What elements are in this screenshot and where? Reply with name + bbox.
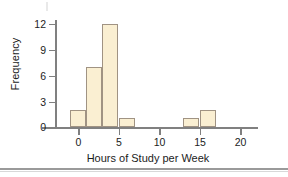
x-axis-title: Hours of Study per Week	[48, 152, 248, 164]
scan-artifact	[46, 2, 48, 11]
y-tick-label-6: 6	[24, 70, 46, 82]
x-tick-mark-15	[200, 129, 202, 135]
y-tick-label-9: 9	[24, 44, 46, 56]
histogram-figure: Frequency 12 9 6 3 0 0 5 10 15 20	[0, 0, 288, 177]
x-tick-label-5: 5	[107, 136, 131, 148]
page-divider-shadow	[0, 171, 288, 172]
histogram-bar	[102, 24, 118, 127]
y-tick-mark-0	[49, 127, 55, 129]
y-tick-mark-12	[49, 24, 55, 26]
histogram-bar	[200, 110, 216, 127]
histogram-bar	[86, 67, 102, 127]
x-tick-label-20: 20	[229, 136, 253, 148]
page-divider	[0, 168, 288, 170]
y-axis-line	[55, 20, 57, 128]
plot-area: 12 9 6 3 0 0 5 10 15 20	[0, 0, 288, 177]
y-tick-mark-9	[49, 50, 55, 52]
y-tick-label-12: 12	[24, 18, 46, 30]
x-tick-mark-5	[119, 129, 121, 135]
x-axis-line	[42, 127, 258, 129]
x-tick-mark-10	[159, 129, 161, 135]
x-tick-label-0: 0	[67, 136, 91, 148]
x-tick-label-15: 15	[188, 136, 212, 148]
histogram-bar	[70, 110, 86, 127]
x-tick-mark-0	[78, 129, 80, 135]
x-tick-mark-20	[240, 129, 242, 135]
y-tick-label-0: 0	[24, 121, 46, 133]
y-tick-label-3: 3	[24, 96, 46, 108]
histogram-bar	[119, 118, 135, 127]
x-tick-label-10: 10	[148, 136, 172, 148]
histogram-bar	[183, 118, 199, 127]
y-tick-mark-3	[49, 102, 55, 104]
y-tick-mark-6	[49, 76, 55, 78]
